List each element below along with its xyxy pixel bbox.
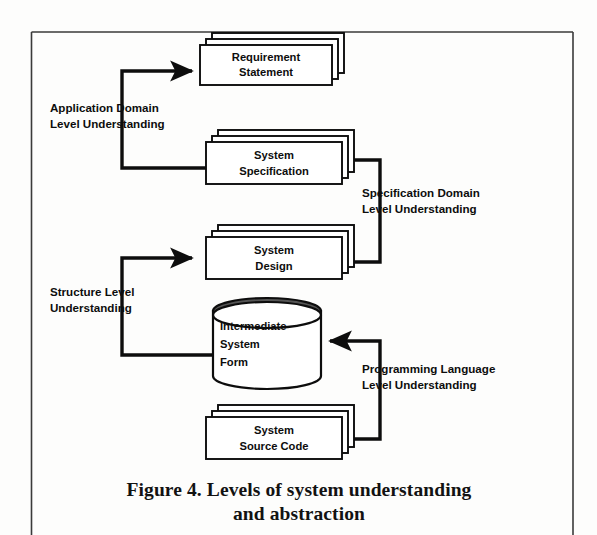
figure-caption: Figure 4. Levels of system understanding… — [34, 478, 564, 526]
node-label-line1: Intermediate — [220, 320, 287, 332]
node-system-design[interactable]: System Design — [206, 225, 354, 279]
node-intermediate-system-form[interactable]: Intermediate System Form — [213, 298, 321, 389]
edge-label-line2: Level Understanding — [362, 378, 477, 391]
node-label-line2: Source Code — [239, 440, 308, 452]
edge-label-line2: Level Understanding — [362, 202, 477, 215]
node-label-line3: Form — [220, 356, 248, 368]
edge-label-programming-language: Programming Language Level Understanding — [362, 362, 496, 391]
edge-label-line2: Level Understanding — [50, 117, 165, 130]
node-system-source-code[interactable]: System Source Code — [206, 405, 354, 459]
node-label-line1: System — [254, 244, 294, 256]
edge-label-line1: Structure Level — [50, 285, 134, 298]
edge-label-line1: Application Domain — [50, 101, 159, 114]
node-label-line2: Statement — [239, 66, 293, 78]
node-label-line2: System — [220, 338, 260, 350]
node-label-line1: System — [254, 424, 294, 436]
edge-label-line1: Programming Language — [362, 362, 496, 375]
node-label-line1: System — [254, 149, 294, 161]
node-system-specification[interactable]: System Specification — [206, 130, 354, 184]
node-label-line2: Specification — [239, 165, 309, 177]
levels-of-understanding-diagram: Requirement Statement System Specificati… — [0, 0, 597, 535]
node-requirement-statement[interactable]: Requirement Statement — [200, 33, 344, 85]
edge-label-line2: Understanding — [50, 301, 132, 314]
figure-container: Requirement Statement System Specificati… — [0, 0, 597, 535]
figure-caption-main: Figure 4. Levels of system understanding — [127, 479, 472, 500]
edge-label-application-domain: Application Domain Level Understanding — [50, 101, 165, 130]
edge-label-line1: Specification Domain — [362, 186, 480, 199]
edge-structure-level — [122, 258, 213, 355]
figure-caption-second: and abstraction — [34, 502, 564, 526]
node-label-line1: Requirement — [232, 51, 301, 63]
node-label-line2: Design — [255, 260, 292, 272]
